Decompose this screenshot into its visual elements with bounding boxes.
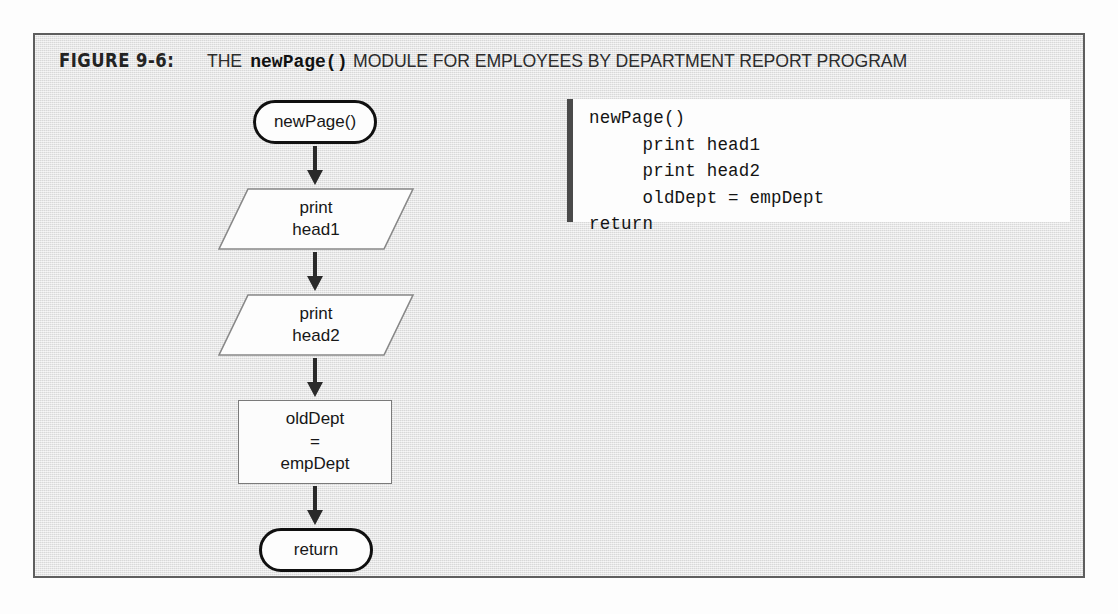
figure-number-label: FIGURE 9-6:: [59, 48, 174, 72]
flow-node-assign-label: oldDept = empDept: [281, 408, 350, 475]
flow-node-end-terminator: return: [259, 528, 373, 572]
caption-code-text: newPage(): [250, 52, 347, 72]
flowchart-diagram: newPage() print head1: [190, 100, 520, 570]
flow-node-start-terminator: newPage(): [253, 100, 377, 144]
pseudocode-panel: newPage() print head1 print head2 oldDep…: [567, 99, 1070, 222]
pseudocode-left-rule: [567, 99, 573, 222]
flow-arrow-out1-to-out2: [305, 252, 325, 292]
flow-arrow-out2-to-assign: [305, 358, 325, 398]
flow-node-start-label: newPage(): [274, 111, 356, 133]
flow-node-out1-label: print head1: [292, 197, 339, 242]
figure-page: FIGURE 9-6:THEnewPage()MODULE FOR EMPLOY…: [0, 0, 1118, 614]
figure-frame: FIGURE 9-6:THEnewPage()MODULE FOR EMPLOY…: [33, 33, 1085, 578]
flow-node-out1-parallelogram: print head1: [218, 188, 414, 250]
flow-node-out2-parallelogram: print head2: [218, 294, 414, 356]
caption-before-text: THE: [207, 50, 242, 72]
flow-arrow-start-to-out1: [305, 146, 325, 186]
pseudocode-text: newPage() print head1 print head2 oldDep…: [589, 105, 1062, 238]
flow-arrow-assign-to-end: [305, 486, 325, 526]
flow-node-assign-rectangle: oldDept = empDept: [238, 400, 392, 484]
flow-node-end-label: return: [294, 539, 338, 561]
flow-node-out2-label: print head2: [292, 303, 339, 348]
caption-after-text: MODULE FOR EMPLOYEES BY DEPARTMENT REPOR…: [353, 50, 907, 72]
figure-caption: FIGURE 9-6:THEnewPage()MODULE FOR EMPLOY…: [59, 48, 949, 72]
